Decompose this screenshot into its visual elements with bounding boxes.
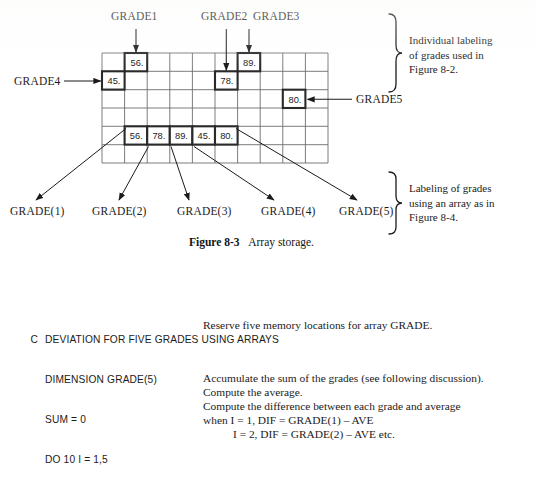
label-grade-4-array: GRADE(4) [261, 205, 316, 217]
code-line: DO 10 I = 1,5 [16, 453, 279, 466]
code-line: CDEVIATION FOR FIVE GRADES USING ARRAYS [16, 333, 279, 346]
label-grade4: GRADE4 [14, 75, 61, 87]
comment-when-i-equals-2: I = 2, DIF = GRADE(2) – AVE etc. [233, 427, 395, 441]
brace-bottom [389, 172, 402, 234]
comment-reserve: Reserve five memory locations for array … [203, 318, 432, 332]
cell-value-array-5: 80. [220, 131, 233, 141]
page-root: 56. 45. 78. 89. 80. 56. 78. 89. 45. 80. [0, 0, 537, 494]
label-grade-1-array: GRADE(1) [10, 205, 65, 217]
figure-caption: Figure 8-3 Array storage. [189, 236, 314, 248]
cell-value-grade5: 80. [289, 95, 302, 105]
label-grade-2-array: GRADE(2) [92, 205, 147, 217]
code-line-number: C [16, 333, 38, 346]
cell-value-grade2: 78. [221, 76, 234, 86]
code-line-text: DO 10 I = 1,5 [45, 454, 108, 465]
brace-top-text: Individual labeling of grades used in Fi… [409, 33, 492, 77]
label-grade-5-array: GRADE(5) [339, 205, 394, 217]
arrow-array-5 [236, 129, 357, 201]
cell-value-grade4: 45. [108, 76, 121, 86]
code-line-text: SUM = 0 [45, 414, 86, 425]
label-grade5: GRADE5 [356, 93, 403, 105]
code-line-text: DEVIATION FOR FIVE GRADES USING ARRAYS [45, 334, 279, 345]
brace-top-line1: Individual labeling [409, 33, 492, 48]
cell-value-array-4: 45. [198, 131, 211, 141]
arrow-array-2 [119, 147, 149, 201]
cell-value-array-1: 56. [130, 131, 143, 141]
cell-value-grade3: 89. [243, 58, 256, 68]
figure-caption-number: Figure 8-3 [189, 236, 240, 248]
brace-top-line2: of grades used in [409, 48, 492, 63]
label-grade3: GRADE3 [253, 10, 300, 22]
cell-value-array-3: 89. [175, 131, 188, 141]
brace-bottom-line3: Figure 8-4. [409, 210, 495, 225]
figure-caption-text: Array storage. [248, 236, 314, 248]
arrow-array-4 [194, 147, 274, 201]
comment-when-i-equals-1: when I = 1, DIF = GRADE(1) – AVE [203, 413, 374, 427]
comment-accumulate: Accumulate the sum of the grades (see fo… [203, 371, 484, 385]
comment-average: Compute the average. [203, 385, 303, 399]
arrow-array-3 [171, 147, 189, 201]
cell-value-grade1: 56. [131, 58, 144, 68]
code-line-text: DIMENSION GRADE(5) [45, 374, 157, 385]
brace-bottom-line2: using an array as in [409, 196, 495, 211]
label-grade-3-array: GRADE(3) [177, 205, 232, 217]
brace-top-line3: Figure 8-2. [409, 62, 492, 77]
cell-value-array-2: 78. [152, 131, 165, 141]
brace-bottom-line1: Labeling of grades [409, 181, 495, 196]
label-grade2: GRADE2 [201, 10, 248, 22]
arrow-array-1 [36, 129, 126, 201]
label-grade1: GRADE1 [111, 10, 158, 22]
brace-top [389, 14, 402, 92]
brace-bottom-text: Labeling of grades using an array as in … [409, 181, 495, 225]
comment-difference: Compute the difference between each grad… [203, 399, 461, 413]
